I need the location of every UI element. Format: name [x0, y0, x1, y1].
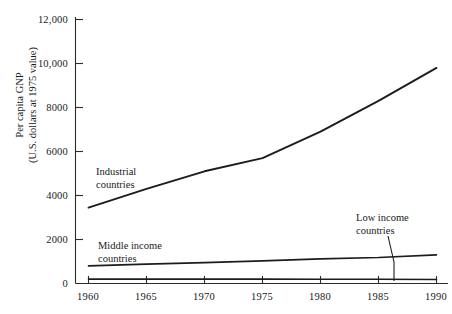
industrial-countries-label-line2: countries — [96, 179, 136, 192]
series-line-industrial-countries — [89, 68, 437, 208]
low-income-leader-line — [388, 236, 394, 281]
y-tick-label-2000: 2000 — [0, 234, 68, 245]
middle-income-countries-label: Middle income countries — [98, 240, 162, 265]
low-income-countries-label-line1: Low income — [356, 212, 409, 225]
x-tick-label-1980: 1980 — [309, 291, 331, 302]
x-tick-label-1960: 1960 — [77, 291, 99, 302]
industrial-countries-label-line1: Industrial — [96, 166, 136, 179]
y-tick-label-0: 0 — [0, 278, 68, 289]
gnp-line-chart: Per capita GNP (U.S. dollars at 1975 val… — [0, 0, 452, 314]
y-tick-label-12000: 12,000 — [0, 14, 68, 25]
x-tick-label-1970: 1970 — [193, 291, 215, 302]
y-axis-ticks — [76, 20, 84, 240]
low-income-countries-label-line2: countries — [356, 225, 409, 238]
y-tick-label-6000: 6000 — [0, 146, 68, 157]
x-tick-label-1965: 1965 — [135, 291, 157, 302]
x-tick-label-1985: 1985 — [367, 291, 389, 302]
y-tick-label-8000: 8000 — [0, 102, 68, 113]
low-income-countries-label: Low income countries — [356, 212, 409, 237]
x-tick-label-1975: 1975 — [251, 291, 273, 302]
y-tick-label-4000: 4000 — [0, 190, 68, 201]
x-tick-label-1990: 1990 — [425, 291, 447, 302]
chart-plot-area — [0, 0, 452, 314]
y-tick-label-10000: 10,000 — [0, 58, 68, 69]
middle-income-countries-label-line1: Middle income — [98, 240, 162, 253]
middle-income-countries-label-line2: countries — [98, 253, 162, 266]
industrial-countries-label: Industrial countries — [96, 166, 136, 191]
